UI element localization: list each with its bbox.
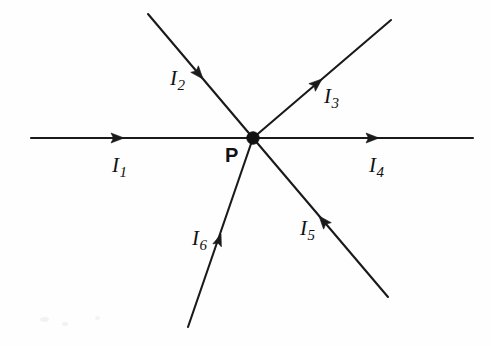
label-I1: I1 [112, 155, 127, 180]
label-I2: I2 [170, 68, 185, 93]
label-junction-P: P [225, 145, 238, 165]
junction-diagram-svg [0, 0, 491, 346]
figure-canvas: I1 I2 I3 I4 I5 I6 P [0, 0, 491, 346]
label-I5: I5 [300, 218, 315, 243]
label-I3-subscript: 3 [331, 95, 339, 111]
label-I2-subscript: 2 [177, 77, 185, 93]
label-I4-subscript: 4 [376, 164, 384, 180]
label-I4: I4 [369, 155, 384, 180]
label-I1-subscript: 1 [119, 164, 127, 180]
scan-speckle [95, 316, 100, 320]
label-I6-subscript: 6 [199, 237, 207, 253]
label-I6: I6 [192, 228, 207, 253]
label-I5-subscript: 5 [307, 227, 315, 243]
label-I1-symbol: I [112, 153, 119, 177]
label-I3: I3 [324, 86, 339, 111]
scan-speckle [62, 322, 68, 326]
scan-speckle [40, 317, 49, 322]
label-I2-symbol: I [170, 66, 177, 90]
label-I4-symbol: I [369, 153, 376, 177]
label-I6-symbol: I [192, 226, 199, 250]
label-I5-symbol: I [300, 216, 307, 240]
label-I3-symbol: I [324, 84, 331, 108]
junction-dot [247, 132, 259, 144]
